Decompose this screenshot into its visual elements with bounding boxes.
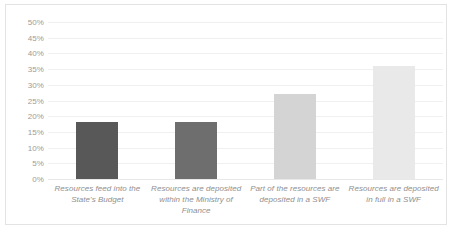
y-axis: 0%5%10%15%20%25%30%35%40%45%50% [0, 22, 44, 179]
bar-slot [344, 22, 443, 179]
x-axis-category-label: Resources are deposited within the Minis… [150, 183, 243, 216]
x-axis-label-slot: Part of the resources are deposited in a… [246, 183, 345, 216]
y-axis-tick-label: 15% [4, 127, 44, 136]
y-axis-tick-label: 0% [4, 175, 44, 184]
y-axis-tick-label: 5% [4, 159, 44, 168]
bar-slot [246, 22, 345, 179]
bar[interactable] [373, 66, 415, 179]
y-axis-tick-label: 35% [4, 65, 44, 74]
y-axis-tick-label: 40% [4, 49, 44, 58]
bar-chart: 0%5%10%15%20%25%30%35%40%45%50% Resource… [0, 0, 452, 234]
x-axis-label-slot: Resources are deposited within the Minis… [147, 183, 246, 216]
bar-series [48, 22, 443, 179]
bar-slot [48, 22, 147, 179]
y-axis-tick-label: 30% [4, 80, 44, 89]
bar[interactable] [274, 94, 316, 179]
y-axis-tick-label: 10% [4, 143, 44, 152]
y-axis-tick-label: 25% [4, 96, 44, 105]
x-axis-label-slot: Resources are deposited in full in a SWF [344, 183, 443, 216]
x-axis-categories: Resources feed into the State's BudgetRe… [48, 183, 443, 216]
bar[interactable] [76, 122, 118, 179]
gridline [48, 179, 443, 180]
x-axis-category-label: Part of the resources are deposited in a… [249, 183, 342, 205]
y-axis-tick-label: 20% [4, 112, 44, 121]
y-axis-tick-label: 50% [4, 18, 44, 27]
x-axis-category-label: Resources feed into the State's Budget [51, 183, 144, 205]
bar-slot [147, 22, 246, 179]
x-axis-label-slot: Resources feed into the State's Budget [48, 183, 147, 216]
y-axis-tick-label: 45% [4, 33, 44, 42]
bar[interactable] [175, 122, 217, 179]
x-axis-category-label: Resources are deposited in full in a SWF [347, 183, 440, 205]
